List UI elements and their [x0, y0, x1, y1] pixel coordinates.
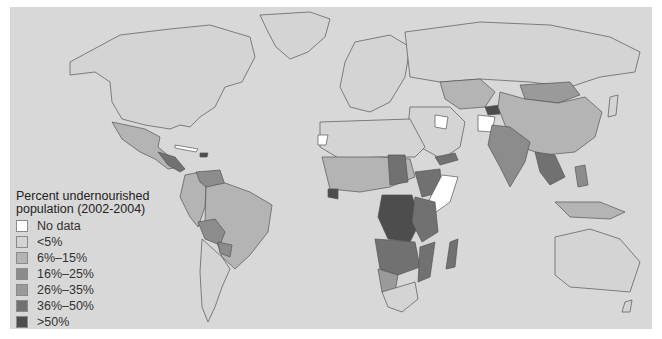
region-chad: [388, 155, 408, 185]
region-russia: [405, 22, 640, 87]
region-north-america: [70, 25, 255, 129]
legend-label: 36%–50%: [37, 299, 94, 313]
region-cuba: [175, 145, 198, 152]
legend-label: >50%: [37, 315, 69, 329]
legend-item-16-25: 16%–25%: [16, 266, 216, 282]
legend-label: <5%: [37, 235, 62, 249]
legend-swatch: [16, 300, 28, 312]
region-philippines: [575, 165, 588, 187]
legend-swatch: [16, 236, 28, 248]
legend-title-line2: population (2002-2004): [16, 203, 216, 216]
legend-label: No data: [37, 219, 81, 233]
legend-label: 26%–35%: [37, 283, 94, 297]
legend-title: Percent undernourished population (2002-…: [16, 190, 216, 216]
region-madagascar: [446, 239, 458, 269]
legend-item-gt50: >50%: [16, 314, 216, 329]
region-sierra-leone: [328, 189, 338, 199]
region-indonesia: [555, 202, 625, 219]
legend-swatch: [16, 268, 28, 280]
legend-item-6-15: 6%–15%: [16, 250, 216, 266]
legend-item-lt5: <5%: [16, 234, 216, 250]
region-greenland: [260, 12, 330, 59]
region-western-sahara: [318, 135, 328, 145]
legend-item-no-data: No data: [16, 218, 216, 234]
region-haiti: [200, 153, 208, 157]
region-east-africa: [412, 197, 438, 242]
region-europe: [340, 35, 410, 112]
region-mozambique: [418, 242, 435, 282]
legend-item-26-35: 26%–35%: [16, 282, 216, 298]
region-japan: [608, 95, 618, 117]
region-north-africa: [320, 119, 425, 159]
region-se-asia: [535, 152, 565, 185]
region-kazakhstan: [440, 79, 495, 109]
legend-swatch: [16, 316, 28, 328]
legend-swatch: [16, 220, 28, 232]
legend-label: 16%–25%: [37, 267, 94, 281]
legend-swatch: [16, 284, 28, 296]
region-new-zealand: [622, 300, 632, 312]
legend-swatch: [16, 252, 28, 264]
region-australia: [555, 229, 640, 292]
region-iraq: [435, 115, 448, 129]
legend-label: 6%–15%: [37, 251, 87, 265]
region-paraguay: [218, 242, 232, 257]
region-angola-zambia: [375, 239, 420, 275]
world-map: Percent undernourished population (2002-…: [10, 7, 652, 329]
legend-item-36-50: 36%–50%: [16, 298, 216, 314]
map-legend: Percent undernourished population (2002-…: [16, 190, 216, 329]
